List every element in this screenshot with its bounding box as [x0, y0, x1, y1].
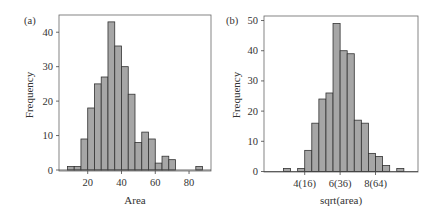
- histogram-bar: [319, 99, 326, 171]
- histogram-bar: [340, 51, 347, 172]
- histogram-bar: [333, 24, 340, 172]
- histogram-bar: [283, 168, 290, 171]
- histogram-bar: [361, 123, 368, 171]
- histogram-bar: [354, 120, 361, 171]
- y-tick-label: 10: [248, 136, 259, 147]
- x-axis-label: sqrt(area): [320, 194, 362, 207]
- histogram-bar: [108, 22, 115, 170]
- y-tick-label: 30: [43, 61, 54, 72]
- histogram-panel-a: 01020304020406080(a)AreaFrequency: [23, 15, 211, 206]
- histogram-bar: [149, 139, 156, 170]
- y-tick-label: 20: [248, 106, 259, 117]
- y-tick-label: 40: [248, 45, 259, 56]
- panel-label: (b): [226, 15, 239, 27]
- histogram-bar: [121, 67, 128, 170]
- panel-label: (a): [24, 15, 36, 27]
- histogram-bar: [94, 84, 101, 170]
- histogram-bar: [397, 168, 404, 171]
- histogram-bar: [305, 150, 312, 171]
- histogram-bar: [67, 167, 74, 170]
- histogram-figure: 01020304020406080(a)AreaFrequency 010203…: [0, 0, 437, 217]
- histogram-bar: [312, 123, 319, 171]
- y-tick-label: 40: [43, 27, 54, 38]
- histogram-bar: [196, 167, 203, 170]
- y-axis-label: Frequency: [23, 71, 35, 118]
- histogram-bar: [368, 153, 375, 171]
- x-tick-label: 60: [150, 177, 161, 188]
- histogram-panel-b: 010203040504(16)6(36)8(64)(b)sqrt(area)F…: [226, 15, 418, 207]
- histogram-bar: [142, 132, 149, 170]
- histogram-bar: [298, 168, 305, 171]
- y-tick-label: 30: [248, 75, 259, 86]
- histogram-bar: [162, 156, 169, 170]
- y-tick-label: 20: [43, 96, 54, 107]
- histogram-bar: [88, 108, 95, 170]
- histogram-bar: [115, 46, 122, 170]
- histogram-bar: [326, 93, 333, 172]
- histogram-bar: [347, 54, 354, 172]
- x-tick-label: 40: [116, 177, 127, 188]
- x-tick-label: 6(36): [329, 178, 352, 190]
- x-tick-label: 80: [184, 177, 195, 188]
- y-tick-label: 10: [43, 130, 54, 141]
- x-axis-label: Area: [124, 194, 145, 206]
- y-tick-label: 50: [248, 15, 259, 26]
- histogram-bar: [135, 142, 142, 170]
- histogram-bar: [81, 139, 88, 170]
- x-tick-label: 20: [82, 177, 93, 188]
- histogram-bar: [376, 156, 383, 171]
- x-tick-label: 4(16): [293, 178, 316, 190]
- y-axis-label: Frequency: [230, 71, 242, 118]
- histogram-bar: [155, 163, 162, 170]
- histogram-bar: [128, 94, 135, 170]
- histogram-bar: [383, 165, 390, 171]
- histogram-bar: [101, 77, 108, 170]
- y-tick-label: 0: [48, 165, 53, 176]
- x-tick-label: 8(64): [364, 178, 387, 190]
- histogram-bar: [74, 167, 81, 170]
- y-tick-label: 0: [253, 166, 258, 177]
- histogram-bar: [169, 160, 176, 170]
